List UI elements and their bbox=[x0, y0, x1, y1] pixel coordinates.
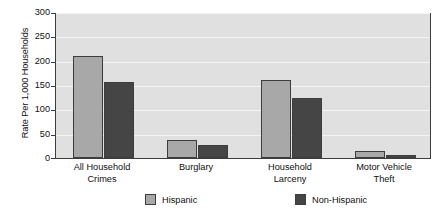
y-axis-tick-labels: 300250200150100500 bbox=[20, 0, 50, 224]
y-tick-mark bbox=[51, 86, 55, 87]
y-tick-label: 100 bbox=[24, 105, 50, 114]
x-axis-tick-labels: All HouseholdCrimesBurglaryHouseholdLarc… bbox=[55, 162, 431, 194]
chart-legend: HispanicNon-Hispanic bbox=[55, 194, 431, 216]
legend-entry-non-hispanic[interactable]: Non-Hispanic bbox=[295, 194, 367, 205]
bar-chart-figure: Rate Per 1,000 Households 30025020015010… bbox=[0, 0, 444, 224]
y-axis-tick-marks bbox=[55, 13, 431, 159]
legend-entry-hispanic[interactable]: Hispanic bbox=[145, 194, 197, 205]
y-tick-mark bbox=[51, 62, 55, 63]
x-tick-label: All HouseholdCrimes bbox=[55, 162, 149, 185]
y-tick-mark bbox=[51, 110, 55, 111]
x-tick-label: Burglary bbox=[149, 162, 243, 174]
y-tick-label: 250 bbox=[24, 32, 50, 41]
x-tick-label: HouseholdLarceny bbox=[243, 162, 337, 185]
x-tick-label-line: Household bbox=[243, 162, 337, 174]
legend-swatch-icon bbox=[145, 194, 156, 205]
y-tick-label: 300 bbox=[24, 8, 50, 17]
y-tick-mark bbox=[51, 158, 55, 159]
y-tick-mark bbox=[51, 135, 55, 136]
x-tick-label-line: Burglary bbox=[149, 162, 243, 174]
y-tick-label: 150 bbox=[24, 81, 50, 90]
x-tick-label-line: Larceny bbox=[243, 174, 337, 186]
y-tick-label: 50 bbox=[24, 130, 50, 139]
x-tick-label-line: Crimes bbox=[55, 174, 149, 186]
y-tick-mark bbox=[51, 37, 55, 38]
legend-label: Non-Hispanic bbox=[312, 195, 367, 205]
legend-label: Hispanic bbox=[162, 195, 197, 205]
y-tick-mark bbox=[51, 13, 55, 14]
y-tick-label: 0 bbox=[24, 154, 50, 163]
x-tick-label-line: Motor Vehicle bbox=[337, 162, 431, 174]
x-tick-label: Motor VehicleTheft bbox=[337, 162, 431, 185]
x-tick-label-line: All Household bbox=[55, 162, 149, 174]
x-tick-label-line: Theft bbox=[337, 174, 431, 186]
legend-swatch-icon bbox=[295, 194, 306, 205]
y-tick-label: 200 bbox=[24, 57, 50, 66]
